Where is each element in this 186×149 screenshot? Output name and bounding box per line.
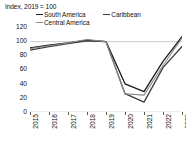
- legend-row-1: South America Caribbean: [36, 11, 184, 19]
- y-tick-label: 20: [7, 95, 27, 102]
- x-tick-label: 2021: [147, 114, 154, 129]
- legend-swatch-central-america: [36, 22, 43, 23]
- x-tick-label: 2023: [185, 114, 186, 129]
- x-tick-mark: [30, 112, 31, 115]
- x-tick-mark: [49, 112, 50, 115]
- plot-area: [30, 24, 182, 112]
- x-tick-label: 2016: [52, 114, 59, 129]
- y-axis: 020406080100120: [5, 0, 27, 149]
- y-tick-label: 100: [7, 38, 27, 45]
- legend-item-south-america: South America: [36, 11, 86, 19]
- legend-swatch-south-america: [36, 14, 43, 15]
- x-tick-mark: [106, 112, 107, 115]
- x-tick-label: 2022: [166, 114, 173, 129]
- legend-item-caribbean: Caribbean: [103, 11, 141, 19]
- legend-label-caribbean: Caribbean: [111, 11, 141, 19]
- legend-label-south-america: South America: [44, 11, 86, 19]
- y-tick-label: 40: [7, 81, 27, 88]
- x-tick-label: 2019: [109, 114, 116, 129]
- x-tick-label: 2015: [33, 114, 40, 129]
- y-tick-label: 0: [7, 109, 27, 116]
- legend-swatch-caribbean: [103, 14, 110, 15]
- x-tick-label: 2018: [90, 114, 97, 129]
- y-tick-label: 120: [7, 24, 27, 31]
- y-tick-label: 60: [7, 66, 27, 73]
- x-tick-label: 2017: [71, 114, 78, 129]
- x-tick-mark: [68, 112, 69, 115]
- plot-svg: [30, 24, 182, 112]
- line-chart: Index, 2019 = 100 South America Caribbea…: [0, 0, 186, 149]
- x-tick-mark: [87, 112, 88, 115]
- x-tick-label: 2020: [128, 114, 135, 129]
- x-tick-mark: [125, 112, 126, 115]
- x-tick-mark: [163, 112, 164, 115]
- x-tick-mark: [144, 112, 145, 115]
- x-axis: 201520162017201820192020202120222023: [30, 112, 182, 149]
- x-tick-mark: [182, 112, 183, 115]
- y-tick-label: 80: [7, 52, 27, 59]
